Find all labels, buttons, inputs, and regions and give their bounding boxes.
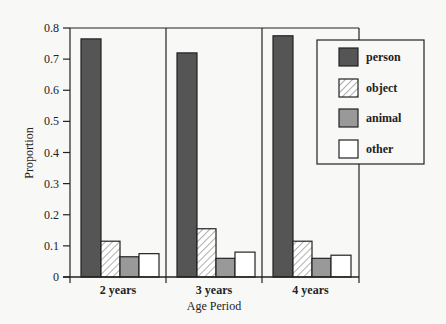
legend-label-person: person [366,50,401,64]
bar-object [101,241,120,277]
x-axis-title: Age Period [187,299,241,313]
bar-animal [120,257,139,277]
bar-other [331,255,351,277]
legend-swatch-other [339,140,358,158]
y-tick-label: 0.3 [44,177,59,191]
y-tick-label: 0.4 [44,146,59,160]
bar-chart: 00.10.20.30.40.50.60.70.8 2 years3 years… [0,0,446,324]
y-axis: 00.10.20.30.40.50.60.70.8 [44,21,70,284]
y-tick-label: 0 [53,270,59,284]
y-tick-label: 0.6 [44,83,59,97]
bar-object [293,241,312,277]
legend-label-other: other [366,142,394,156]
x-tick-label: 3 years [196,283,233,297]
y-tick-label: 0.1 [44,239,59,253]
legend: personobjectanimalother [317,40,424,164]
bar-other [139,254,159,277]
y-tick-label: 0.5 [44,114,59,128]
bar-object [197,229,216,277]
x-tick-label: 2 years [100,283,137,297]
y-axis-title: Proportion [22,127,36,178]
bar-animal [312,258,331,277]
bar-animal [216,258,235,277]
x-axis: 2 years3 years4 years [63,277,359,297]
legend-swatch-person [339,48,358,66]
plot-area [70,28,359,283]
y-tick-label: 0.7 [44,52,59,66]
legend-label-object: object [366,81,397,95]
y-tick-label: 0.8 [44,21,59,35]
bar-person [273,36,293,277]
legend-label-animal: animal [366,111,402,125]
legend-swatch-animal [339,109,358,127]
y-tick-label: 0.2 [44,208,59,222]
legend-swatch-object [339,79,358,97]
bar-person [81,39,101,277]
bar-person [177,53,197,277]
x-tick-label: 4 years [292,283,329,297]
bar-other [235,252,255,277]
